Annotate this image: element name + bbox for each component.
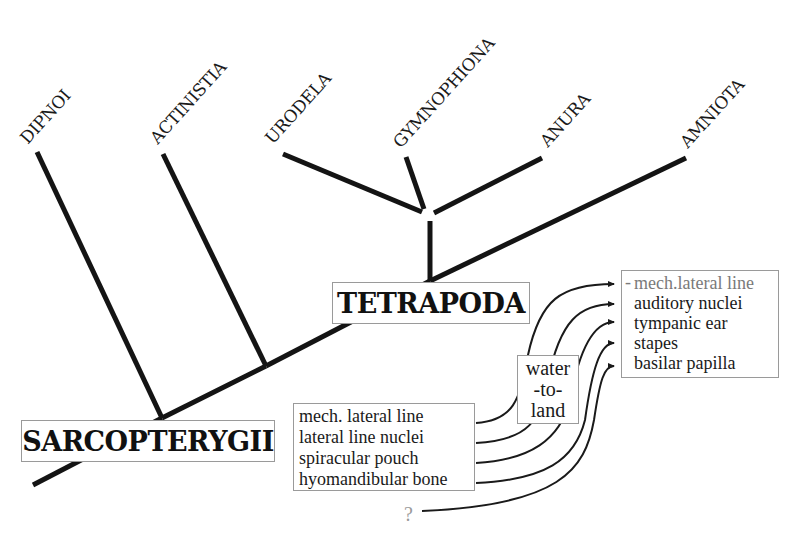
- fish-features-box: mech. lateral line lateral line nuclei s…: [293, 403, 475, 491]
- branch-anura: [434, 158, 542, 213]
- transition-line: -to-: [518, 379, 578, 400]
- tetrapod-feature-item: basilar papilla: [634, 353, 778, 373]
- branch-amniota: [430, 158, 686, 281]
- tetrapod-features-box: - mech.lateral line auditory nuclei tymp…: [621, 270, 779, 378]
- clade-label-sarcopterygii: SARCOPTERYGII: [21, 420, 275, 462]
- tetrapod-feature-item: tympanic ear: [634, 313, 778, 333]
- branch-gymnophiona: [406, 157, 424, 209]
- branch-actinistia: [163, 154, 266, 366]
- transition-line: land: [518, 400, 578, 421]
- water-to-land-label: water -to- land: [517, 355, 579, 424]
- tetrapod-feature-item: auditory nuclei: [634, 293, 778, 313]
- fish-feature-item: spiracular pouch: [299, 448, 474, 469]
- branch-dipnoi: [37, 152, 162, 418]
- fish-feature-item: lateral line nuclei: [299, 427, 474, 448]
- lost-feature-dash: -: [625, 272, 631, 292]
- unknown-origin-mark: ?: [404, 503, 413, 526]
- trunk-branch-sarcopterygii-to-actinistia: [162, 366, 266, 418]
- tetrapod-feature-item: mech.lateral line: [634, 273, 778, 293]
- transition-line: water: [518, 358, 578, 379]
- fish-feature-item: mech. lateral line: [299, 406, 474, 427]
- branch-urodela: [283, 154, 422, 212]
- fish-feature-item: hyomandibular bone: [299, 469, 474, 490]
- tetrapod-feature-item: stapes: [634, 333, 778, 353]
- clade-label-tetrapoda: TETRAPODA: [332, 282, 530, 324]
